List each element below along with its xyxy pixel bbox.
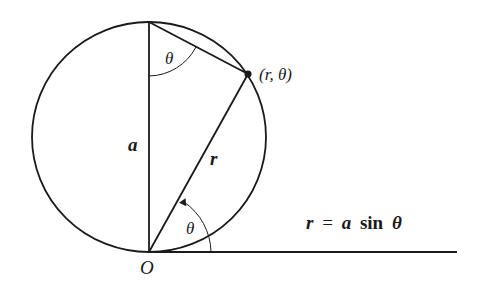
diameter-label: a — [128, 134, 138, 155]
radius-line — [149, 74, 248, 252]
equation-equals: = — [322, 212, 333, 233]
polar-circle-diagram: θ (r, θ) a r θ O r = a sin θ — [0, 0, 477, 292]
bottom-angle-label: θ — [186, 219, 194, 238]
origin-label: O — [140, 257, 154, 278]
equation-lhs: r — [306, 212, 314, 233]
radius-label: r — [210, 148, 218, 169]
chord-line — [149, 22, 248, 74]
equation-sin: sin — [360, 212, 384, 233]
point-marker — [245, 71, 252, 78]
top-angle-label: θ — [165, 49, 173, 68]
equation-theta: θ — [392, 212, 402, 233]
point-label: (r, θ) — [259, 65, 292, 84]
equation-label: r = a sin θ — [306, 212, 402, 233]
arrow-head-icon — [179, 198, 190, 208]
equation-a: a — [342, 212, 352, 233]
